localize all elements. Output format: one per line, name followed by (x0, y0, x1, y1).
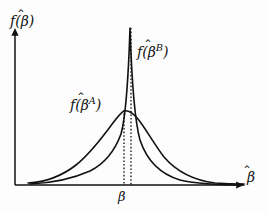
curve-b-beta-symbol: β (148, 44, 156, 60)
curve-b-superscript: B (156, 42, 163, 53)
x-axis-label: β̂ (247, 170, 255, 184)
curve-a-beta-hat: β̂ (81, 98, 89, 112)
curve-b-label-suffix: ) (163, 44, 168, 60)
curve-a-label: f(β̂A) (70, 96, 101, 112)
curve-a-label-suffix: ) (96, 97, 101, 113)
curve-a-superscript: A (89, 95, 96, 106)
x-axis-beta-hat: β̂ (247, 170, 255, 184)
plot-canvas (0, 0, 269, 213)
y-axis-label-suffix: ) (29, 13, 34, 29)
y-axis-beta-hat: β̂ (21, 14, 29, 28)
beta-tick-label: β (118, 190, 126, 203)
x-axis-beta-symbol: β (247, 169, 255, 185)
y-axis-label: f(β̂) (10, 14, 34, 28)
y-axis-label-prefix: f( (10, 13, 21, 29)
sampling-distribution-figure: f(β̂) β̂ f(β̂B) f(β̂A) β (0, 0, 269, 213)
curve-a-beta-symbol: β (81, 97, 89, 113)
curve-a-label-prefix: f( (70, 97, 81, 113)
curve-b-label: f(β̂B) (137, 43, 168, 59)
curve-b-beta-hat: β̂ (148, 45, 156, 59)
curve-b-label-prefix: f( (137, 44, 148, 60)
y-axis-beta-symbol: β (21, 13, 29, 29)
